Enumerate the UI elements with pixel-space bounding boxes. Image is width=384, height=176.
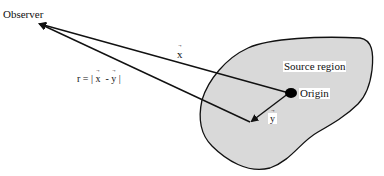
origin-label: Origin bbox=[299, 88, 330, 99]
r-equation-x: x bbox=[95, 74, 100, 84]
y-vector-symbol: y bbox=[270, 114, 275, 124]
observer-label: Observer bbox=[3, 9, 43, 20]
r-equation-prefix: r = | bbox=[77, 73, 93, 84]
y-vector-label: y bbox=[268, 113, 277, 124]
origin-dot bbox=[285, 88, 297, 98]
r-equation-y: y bbox=[111, 74, 116, 84]
x-vector-label: x bbox=[177, 49, 183, 60]
x-vector-symbol: x bbox=[177, 49, 183, 60]
r-equation-suffix: | bbox=[119, 73, 121, 84]
r-equation-label: r = | x - y | bbox=[77, 74, 121, 84]
diagram-canvas: Observer x r = | x - y | Source region O… bbox=[0, 0, 384, 176]
source-region-label: Source region bbox=[283, 61, 346, 72]
source-region-shape bbox=[200, 37, 373, 169]
r-equation-minus: - bbox=[105, 73, 108, 84]
